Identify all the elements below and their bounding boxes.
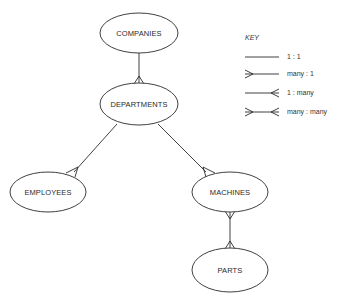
entity-employees: EMPLOYEES [10,172,86,212]
entity-machines: MACHINES [192,172,268,212]
entity-label: COMPANIES [116,29,161,38]
entity-label: EMPLOYEES [24,188,71,197]
relationship-machines-parts [225,211,235,249]
crowfoot-left-icon [245,70,279,78]
crowfoot-both-icon [245,108,279,116]
legend-item-one-to-one: 1 : 1 [245,53,301,60]
legend-item-many-to-one: many : 1 [245,70,314,78]
entity-label: MACHINES [210,188,250,197]
entity-label: DEPARTMENTS [110,100,167,109]
legend-label: many : 1 [287,70,314,78]
legend: KEY 1 : 1 many : 1 1 : many [245,34,328,116]
er-diagram: COMPANIES DEPARTMENTS EMPLOYEES MACHINES… [0,0,341,301]
legend-item-one-to-many: 1 : many [245,89,314,97]
legend-label: many : many [287,108,328,116]
legend-title: KEY [245,34,260,41]
entity-departments: DEPARTMENTS [100,83,178,125]
relationship-departments-machines [158,124,215,177]
legend-label: 1 : many [287,89,314,97]
crowfoot-right-icon [245,89,279,97]
entity-companies: COMPANIES [100,13,178,53]
entity-parts: PARTS [192,248,268,292]
relationship-departments-employees [66,124,117,177]
entity-label: PARTS [218,266,243,275]
legend-item-many-to-many: many : many [245,108,328,116]
relationship-companies-departments [134,53,144,84]
legend-label: 1 : 1 [287,53,301,60]
